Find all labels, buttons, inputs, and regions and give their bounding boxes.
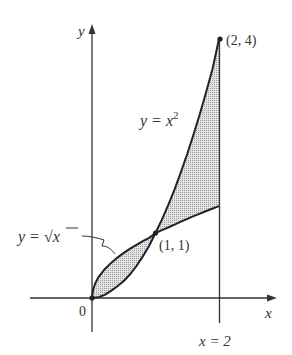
point-2-4 [217,36,222,41]
shaded-region-right [156,39,220,233]
sqrt-label-var: x [52,228,60,245]
parabola-label-exp: 2 [173,109,179,121]
area-diagram: y x 0 (2, 4) (1, 1) x = 2 y = x2 y = √x [0,0,292,355]
sqrt-label-lhs: y = [16,228,44,246]
y-axis-arrow-icon [89,24,96,34]
vertical-line-label-text: x = 2 [198,333,231,349]
parabola-label-var: x [165,112,173,129]
x-axis-label: x [264,305,272,321]
sqrt-label-radical: √ [44,228,53,245]
x-axis-arrow-icon [267,295,277,302]
point-2-4-label: (2, 4) [226,33,257,49]
sqrt-label-leader [82,236,115,254]
sqrt-label: y = √x [16,228,60,246]
parabola-label-lhs: y = [138,112,166,130]
origin-label: 0 [79,304,86,319]
parabola-label: y = x2 [138,109,179,130]
point-origin [89,295,94,300]
shaded-region-left [92,233,156,298]
y-axis-label: y [76,23,85,39]
vertical-line-label: x = 2 [198,333,231,349]
point-1-1-label: (1, 1) [159,238,190,254]
point-1-1 [153,230,158,235]
